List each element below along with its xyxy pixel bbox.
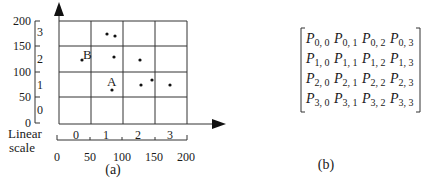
linear-scale-title-line1: Linear <box>8 128 42 140</box>
matrix-row-2: P2, 0P2, 1P2, 2P2, 3 <box>306 71 418 88</box>
x-cell-1: 1 <box>103 129 109 141</box>
x-axis-arrow-icon <box>212 119 226 129</box>
y-value-50: 50 <box>19 91 31 103</box>
y-value-100: 100 <box>13 66 31 78</box>
x-value-200: 200 <box>177 151 195 163</box>
matrix-cell: P1, 3 <box>390 51 418 68</box>
matrix-cell: P3, 3 <box>390 91 418 108</box>
y-cell-0: 0 <box>37 104 43 116</box>
caption-a: (a) <box>105 163 121 177</box>
x-cell-0: 0 <box>73 129 79 141</box>
x-value-150: 150 <box>145 151 163 163</box>
x-value-0: 0 <box>54 151 60 163</box>
y-cell-1: 1 <box>37 79 43 91</box>
y-value-200: 200 <box>13 15 31 27</box>
y-axis-arrow-icon <box>54 2 64 16</box>
matrix-cell: P3, 0 <box>306 91 334 108</box>
matrix-cell: P2, 0 <box>306 71 334 88</box>
matrix-cell: P3, 2 <box>362 91 390 108</box>
matrix-cell: P1, 0 <box>306 51 334 68</box>
y-value-150: 150 <box>13 40 31 52</box>
matrix-row-3: P3, 0P3, 1P3, 2P3, 3 <box>306 91 418 108</box>
x-cell-3: 3 <box>167 129 173 141</box>
caption-b: (b) <box>318 158 334 172</box>
data-points <box>80 32 171 91</box>
x-cell-2: 2 <box>135 129 141 141</box>
matrix-cell: P0, 1 <box>334 31 362 48</box>
matrix-cell: P0, 2 <box>362 31 390 48</box>
x-value-50: 50 <box>84 151 96 163</box>
matrix-cell: P1, 1 <box>334 51 362 68</box>
matrix-cell: P1, 2 <box>362 51 390 68</box>
point-label-b: B <box>83 49 92 61</box>
point-label-a: A <box>107 76 116 88</box>
probability-matrix: P0, 0P0, 1P0, 2P0, 3 P1, 0P1, 1P1, 2P1, … <box>301 28 420 112</box>
matrix-row-0: P0, 0P0, 1P0, 2P0, 3 <box>306 31 418 48</box>
matrix-cell: P2, 3 <box>390 71 418 88</box>
matrix-cell: P3, 1 <box>334 91 362 108</box>
linear-scale-title-line2: scale <box>9 142 35 154</box>
matrix-cell: P0, 0 <box>306 31 334 48</box>
matrix-cell: P2, 2 <box>362 71 390 88</box>
matrix-row-1: P1, 0P1, 1P1, 2P1, 3 <box>306 51 418 68</box>
matrix-cell: P2, 1 <box>334 71 362 88</box>
matrix-cell: P0, 3 <box>390 31 418 48</box>
y-cell-3: 3 <box>37 26 43 38</box>
y-cell-2: 2 <box>37 53 43 65</box>
